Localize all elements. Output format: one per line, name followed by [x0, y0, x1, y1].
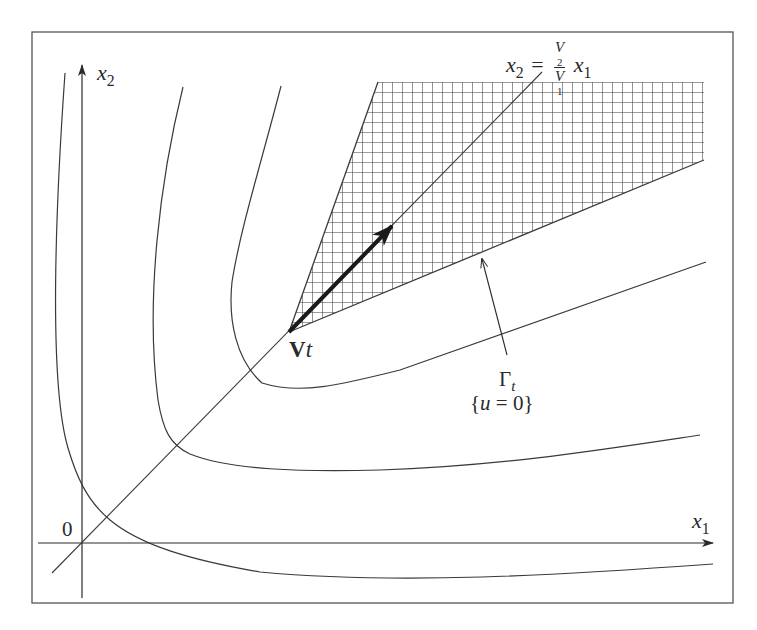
eq-fraction: V2 V1 — [554, 40, 565, 95]
gamma-symbol: Γ — [499, 367, 511, 391]
eq-rhs-sub: 1 — [584, 64, 592, 81]
x1-axis-label: x1 — [692, 510, 710, 532]
eq-den-var: V — [554, 69, 565, 84]
x1-var: x — [692, 508, 702, 533]
origin-label: 0 — [62, 519, 73, 540]
hatched-region — [289, 82, 704, 332]
vertex-bold-v: V — [289, 337, 306, 362]
eq-lhs-sub: 2 — [516, 64, 524, 81]
x2-sub: 2 — [107, 72, 115, 89]
eq-num-sub: 2 — [555, 57, 564, 68]
gamma-label: Γt — [499, 369, 515, 390]
eq-num-var: V — [555, 40, 564, 55]
gamma-pointer-arrow — [482, 259, 507, 355]
vertex-label: Vt — [289, 338, 312, 361]
diagram-canvas — [0, 0, 757, 630]
vertex-italic-t: t — [306, 337, 312, 362]
eq-rhs-var: x — [574, 52, 584, 77]
eq-equals: = — [531, 52, 543, 77]
x2-axis-label: x2 — [97, 62, 115, 84]
zero-set-text: {u = 0} — [470, 391, 534, 415]
x1-sub: 1 — [702, 520, 710, 537]
line-equation-label: x2 = V2 V1 x1 — [506, 40, 591, 95]
eq-lhs-var: x — [506, 52, 516, 77]
x2-var: x — [97, 60, 107, 85]
zero-set-label: {u = 0} — [470, 393, 534, 414]
eq-den-sub: 1 — [554, 86, 565, 97]
